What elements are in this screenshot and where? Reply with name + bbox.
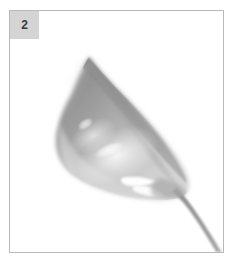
figure-index-badge: 2 (10, 11, 39, 39)
figure-root: 2 (0, 0, 232, 265)
specimen-panel: 2 (9, 10, 224, 253)
figure-index-label: 2 (21, 19, 28, 31)
leaf-svg (10, 11, 223, 252)
leaf-illustration (10, 11, 223, 252)
